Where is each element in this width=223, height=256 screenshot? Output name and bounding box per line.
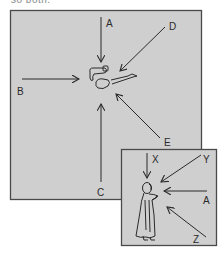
label-z: Z bbox=[193, 234, 199, 245]
label-b: B bbox=[17, 86, 24, 97]
label-y: Y bbox=[203, 154, 210, 165]
label-c: C bbox=[97, 187, 104, 198]
label-a: A bbox=[106, 18, 113, 29]
viewpoint-diagram: A B C D E bbox=[0, 0, 223, 256]
label-inset-a: A bbox=[203, 195, 210, 206]
inset-panel: X Y A Z bbox=[122, 150, 217, 246]
label-e: E bbox=[164, 137, 171, 148]
label-x: X bbox=[152, 154, 159, 165]
label-d: D bbox=[169, 21, 176, 32]
